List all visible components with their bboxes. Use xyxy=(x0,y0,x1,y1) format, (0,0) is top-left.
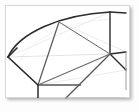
geometric-figure xyxy=(0,0,139,112)
outer-arc-group xyxy=(8,12,126,57)
chord-left-lower xyxy=(8,57,38,85)
spoke-to-right-lower xyxy=(110,54,126,70)
guide-arc-inner xyxy=(8,12,110,57)
arc-tail-right xyxy=(110,12,126,13)
spoke-to-bottom-diagonal xyxy=(66,54,110,98)
thumbnail-root xyxy=(0,0,139,112)
spoke-to-lower-left-corner xyxy=(38,54,110,85)
spoke-to-arc-node-upper-solid xyxy=(38,22,59,85)
spoke-to-hub-from-arc-node xyxy=(59,22,110,54)
spoke-to-right-mid xyxy=(110,52,126,54)
